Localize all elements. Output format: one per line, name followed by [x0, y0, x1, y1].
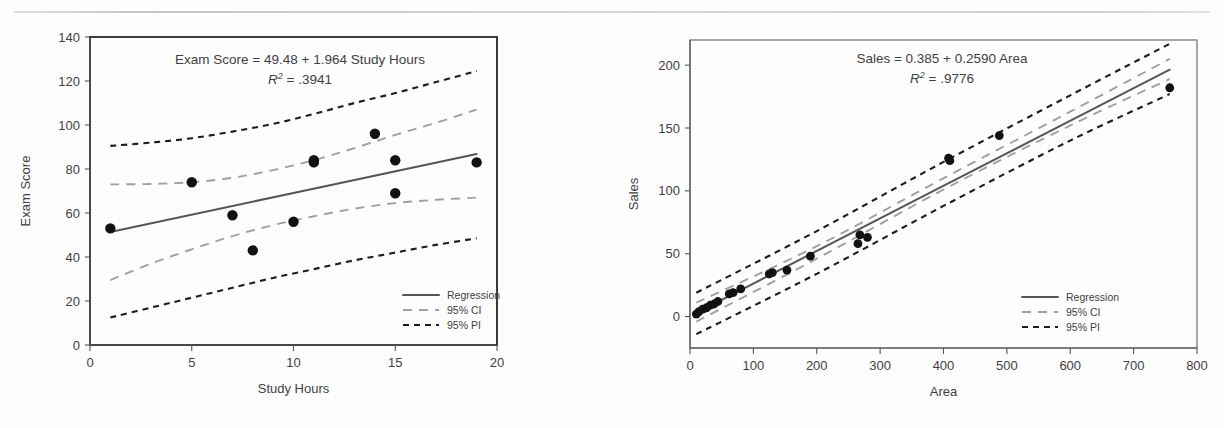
y-tick-label-2: 40 — [66, 250, 80, 265]
y-tick-label-0: 0 — [73, 338, 80, 353]
y-tick-label-4: 200 — [658, 58, 680, 73]
legend-label-95-pi: 95% PI — [447, 319, 481, 331]
series-95-ci-lower — [696, 79, 1169, 322]
y-axis-title: Exam Score — [18, 156, 33, 227]
plot-frame — [690, 40, 1197, 348]
y-tick-label-3: 60 — [66, 206, 80, 221]
r-squared-label: R2 = .3941 — [268, 71, 332, 87]
data-point — [105, 223, 115, 233]
y-tick-label-3: 150 — [658, 121, 680, 136]
y-axis-title: Sales — [626, 177, 641, 210]
data-point — [729, 288, 738, 297]
x-tick-label-8: 800 — [1186, 358, 1208, 373]
x-axis-title: Area — [930, 384, 958, 399]
legend-label-95-pi: 95% PI — [1066, 321, 1100, 333]
y-tick-label-1: 20 — [66, 294, 80, 309]
y-tick-label-4: 80 — [66, 162, 80, 177]
data-point — [248, 245, 258, 255]
series-95-ci-upper — [696, 59, 1169, 303]
x-tick-label-4: 400 — [933, 358, 955, 373]
chart-exam-score-vs-study-hours: 02040608010012014005101520Study HoursExa… — [0, 0, 612, 428]
data-point — [855, 230, 864, 239]
series-group — [110, 71, 476, 317]
data-point — [736, 285, 745, 294]
r2-symbol: R — [910, 71, 920, 86]
r2-value: = .3941 — [283, 72, 332, 87]
data-point — [863, 233, 872, 242]
y-axis: 050100150200 — [658, 40, 690, 348]
x-tick-label-3: 300 — [869, 358, 891, 373]
data-point — [995, 131, 1004, 140]
x-tick-label-2: 10 — [286, 355, 300, 370]
data-point — [390, 188, 400, 198]
r2-value: = .9776 — [925, 71, 974, 86]
x-tick-label-3: 15 — [388, 355, 402, 370]
x-axis: 05101520 — [86, 345, 504, 370]
x-tick-label-6: 600 — [1059, 358, 1081, 373]
regression-equation: Exam Score = 49.48 + 1.964 Study Hours — [175, 52, 425, 67]
data-points — [692, 83, 1174, 318]
r-squared-label: R2 = .9776 — [910, 70, 974, 86]
chart-title-group: Exam Score = 49.48 + 1.964 Study HoursR2… — [175, 52, 425, 87]
r2-symbol: R — [268, 72, 278, 87]
legend: Regression95% CI95% PI — [1022, 291, 1119, 333]
series-95-ci-lower — [110, 198, 476, 281]
series-95-pi-lower — [110, 238, 476, 317]
x-tick-label-0: 0 — [86, 355, 93, 370]
data-point — [768, 268, 777, 277]
y-axis: 020406080100120140 — [58, 30, 90, 353]
x-tick-label-4: 20 — [490, 355, 504, 370]
data-point — [945, 156, 954, 165]
data-point — [309, 157, 319, 167]
chart-title-group: Sales = 0.385 + 0.2590 AreaR2 = .9776 — [856, 51, 1028, 86]
x-tick-label-2: 200 — [806, 358, 828, 373]
y-tick-label-6: 120 — [58, 74, 80, 89]
x-tick-label-1: 5 — [188, 355, 195, 370]
figure-page: 02040608010012014005101520Study HoursExa… — [0, 0, 1224, 428]
data-point — [288, 217, 298, 227]
legend-label-regression: Regression — [1066, 291, 1119, 303]
y-tick-label-2: 100 — [658, 183, 680, 198]
x-axis: 0100200300400500600700800 — [686, 348, 1207, 373]
x-axis-title: Study Hours — [258, 381, 330, 396]
legend: Regression95% CI95% PI — [403, 289, 500, 331]
regression-equation: Sales = 0.385 + 0.2590 Area — [856, 51, 1028, 66]
x-tick-label-5: 500 — [996, 358, 1018, 373]
data-point — [390, 155, 400, 165]
chart-sales-vs-area: 0501001502000100200300400500600700800Are… — [612, 0, 1224, 428]
data-point — [806, 252, 815, 261]
y-tick-label-1: 50 — [666, 246, 680, 261]
y-tick-label-5: 100 — [58, 118, 80, 133]
left-chart-canvas: 02040608010012014005101520Study HoursExa… — [0, 0, 612, 428]
legend-label-95-ci: 95% CI — [1066, 306, 1100, 318]
x-tick-label-0: 0 — [686, 358, 693, 373]
x-tick-label-1: 100 — [743, 358, 765, 373]
right-chart-canvas: 0501001502000100200300400500600700800Are… — [612, 0, 1224, 428]
data-point — [227, 210, 237, 220]
data-point — [854, 239, 863, 248]
data-point — [783, 266, 792, 275]
data-point — [370, 129, 380, 139]
data-point — [471, 157, 481, 167]
data-point — [713, 297, 722, 306]
y-tick-label-0: 0 — [673, 309, 680, 324]
data-point — [187, 177, 197, 187]
y-tick-label-7: 140 — [58, 30, 80, 45]
data-point — [1165, 83, 1174, 92]
legend-label-regression: Regression — [447, 289, 500, 301]
legend-label-95-ci: 95% CI — [447, 304, 481, 316]
x-tick-label-7: 700 — [1123, 358, 1145, 373]
series-95-ci-upper — [110, 110, 476, 185]
